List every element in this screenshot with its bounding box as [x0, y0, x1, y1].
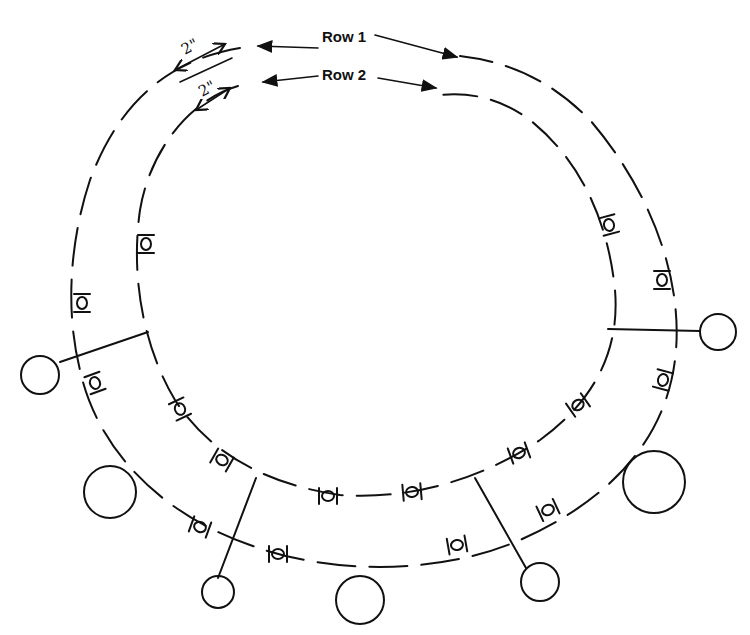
bead-unit — [447, 536, 468, 555]
bead-unit — [319, 488, 337, 504]
spacing-label-row1: 2" — [178, 35, 201, 59]
bead-unit — [138, 235, 154, 253]
row1-segments — [71, 48, 676, 567]
row1-left-arrow — [258, 46, 318, 48]
row1-right-arrow — [375, 35, 457, 57]
bead-unit — [654, 271, 670, 289]
bead-unit — [210, 449, 234, 472]
spacing-indicator-row2: 2" — [195, 77, 230, 110]
bead-units — [74, 214, 673, 562]
bead-unit — [536, 499, 559, 521]
pendants — [21, 314, 736, 624]
row2-label: Row 2 — [322, 66, 366, 83]
row2-right-arrow — [378, 78, 436, 88]
pendant-right — [608, 314, 736, 350]
diagram-svg: Row 1 Row 2 2" 2" — [0, 0, 750, 635]
row1-label: Row 1 — [322, 28, 366, 45]
bead-unit — [189, 516, 211, 537]
pendant-lower-left — [84, 466, 136, 518]
row2-left-arrow — [263, 76, 318, 82]
row2-label-group: Row 2 — [263, 66, 436, 88]
pendant-bottom-left — [202, 478, 256, 608]
row2-oval — [137, 86, 616, 496]
pendant-lower-right — [623, 451, 685, 513]
pattern-diagram: Row 1 Row 2 2" 2" — [0, 0, 750, 635]
bead-unit — [74, 294, 90, 312]
row1-oval — [71, 48, 676, 567]
row2-segments — [137, 86, 616, 496]
row1-label-group: Row 1 — [258, 28, 457, 57]
bead-unit — [84, 372, 105, 394]
pendant-bottom-center — [336, 576, 384, 624]
pendant-bottom-right — [475, 478, 559, 601]
